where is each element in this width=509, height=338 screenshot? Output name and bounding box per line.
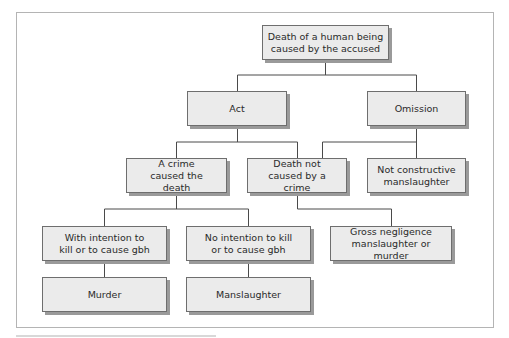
node-act: Act bbox=[187, 91, 287, 126]
node-label: Not constructive manslaughter bbox=[374, 164, 459, 188]
node-label: Death of a human being caused by the acc… bbox=[267, 31, 384, 55]
figure-caption-cropped bbox=[16, 334, 236, 338]
node-gross-negligence: Gross negligence manslaughter or murder bbox=[330, 226, 452, 261]
node-label: A crime caused the death bbox=[143, 158, 210, 194]
node-label: Omission bbox=[395, 103, 439, 115]
node-label: Act bbox=[229, 103, 244, 115]
node-crime-caused-death: A crime caused the death bbox=[126, 158, 227, 193]
node-label: Manslaughter bbox=[216, 289, 281, 301]
node-manslaughter: Manslaughter bbox=[186, 277, 311, 312]
node-label: With intention to kill or to cause gbh bbox=[57, 232, 152, 256]
node-not-constructive-manslaughter: Not constructive manslaughter bbox=[367, 158, 466, 193]
node-murder: Murder bbox=[42, 277, 167, 312]
node-with-intention: With intention to kill or to cause gbh bbox=[42, 226, 167, 261]
node-label: No intention to kill or to cause gbh bbox=[199, 232, 298, 256]
node-label: Murder bbox=[88, 289, 122, 301]
node-label: Gross negligence manslaughter or murder bbox=[335, 226, 447, 262]
node-death-not-caused-by-crime: Death not caused by a crime bbox=[247, 158, 347, 193]
node-label: Death not caused by a crime bbox=[256, 158, 338, 194]
node-death-caused-by-accused: Death of a human being caused by the acc… bbox=[262, 25, 389, 60]
node-omission: Omission bbox=[367, 91, 466, 126]
node-no-intention: No intention to kill or to cause gbh bbox=[186, 226, 311, 261]
